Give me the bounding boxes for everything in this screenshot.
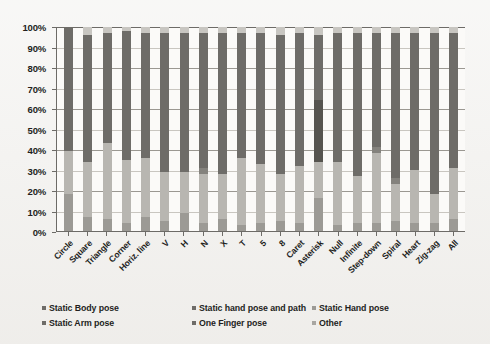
bar-slot [194, 27, 213, 231]
stacked-bar[interactable] [391, 27, 400, 231]
bar-slot [155, 27, 174, 231]
bar-segment [103, 143, 112, 218]
stacked-bar[interactable] [353, 27, 362, 231]
legend-item[interactable]: One Finger pose [192, 318, 312, 328]
bar-slot [136, 27, 155, 231]
stacked-bar[interactable] [218, 27, 227, 231]
legend-label: Static Arm pose [49, 318, 114, 328]
x-axis-tick-label: X [218, 238, 229, 249]
bar-segment [391, 33, 400, 178]
x-axis-tick-label: N [198, 238, 209, 249]
stacked-bar[interactable] [430, 27, 439, 231]
bar-segment [199, 223, 208, 231]
legend-item[interactable]: Other [312, 318, 442, 328]
bar-segment [180, 33, 189, 172]
y-axis-tick-label: 70% [0, 83, 46, 94]
x-axis-tick-label: V [160, 238, 171, 249]
bar-segment [430, 194, 439, 223]
bar-slot [251, 27, 270, 231]
bar-slot [405, 27, 424, 231]
legend-label: One Finger pose [199, 318, 267, 328]
bar-segment [391, 184, 400, 221]
bar-segment [449, 219, 458, 231]
stacked-bar[interactable] [199, 27, 208, 231]
stacked-bar[interactable] [256, 27, 265, 231]
bar-segment [314, 100, 323, 161]
bar-segment [122, 160, 131, 223]
stacked-bar[interactable] [141, 27, 150, 231]
stacked-bar[interactable] [237, 27, 246, 231]
stacked-bar[interactable] [295, 27, 304, 231]
legend-swatch-icon [192, 321, 196, 325]
bar-segment [410, 223, 419, 231]
y-axis-tick-label: 0% [0, 227, 46, 238]
stacked-bar[interactable] [103, 27, 112, 231]
bar-segment [276, 174, 285, 221]
stacked-bar[interactable] [180, 27, 189, 231]
legend-item[interactable]: Static Arm pose [42, 318, 192, 328]
bar-slot [309, 27, 328, 231]
x-axis-tick-mark [434, 232, 435, 236]
stacked-bar[interactable] [160, 27, 169, 231]
bar-segment [199, 33, 208, 168]
bar-segment [276, 221, 285, 231]
legend-item[interactable]: Static Body pose [42, 303, 192, 313]
x-axis-tick-label: 5 [257, 238, 267, 248]
stacked-bar[interactable] [410, 27, 419, 231]
bar-slot [367, 27, 386, 231]
bar-segment [391, 221, 400, 231]
stacked-bar[interactable] [449, 27, 458, 231]
bar-segment [122, 223, 131, 231]
legend-swatch-icon [312, 306, 316, 310]
bar-segment [449, 168, 458, 219]
bar-slot [386, 27, 405, 231]
legend-label: Static Hand pose [319, 303, 389, 313]
y-axis-tick-label: 60% [0, 104, 46, 115]
bar-segment [103, 33, 112, 143]
x-axis-tick-mark [318, 232, 319, 236]
bar-segment [295, 166, 304, 223]
bar-group [57, 27, 465, 231]
bar-segment [353, 223, 362, 231]
bar-slot [117, 27, 136, 231]
bar-slot [328, 27, 347, 231]
stacked-bar[interactable] [83, 27, 92, 231]
legend-item[interactable]: Static hand pose and path [192, 303, 312, 313]
stacked-bar[interactable] [333, 27, 342, 231]
bar-segment [218, 174, 227, 219]
stacked-bar[interactable] [314, 27, 323, 231]
stacked-bar[interactable] [372, 27, 381, 231]
stacked-bar[interactable] [64, 27, 73, 231]
bar-segment [276, 35, 285, 174]
x-axis-tick-mark [396, 232, 397, 236]
y-axis-tick-label: 20% [0, 186, 46, 197]
bar-slot [348, 27, 367, 231]
x-axis-tick-mark [183, 232, 184, 236]
bar-segment [256, 33, 265, 164]
stacked-bar[interactable] [276, 27, 285, 231]
bar-segment [141, 33, 150, 157]
bar-segment [333, 33, 342, 162]
stacked-bar[interactable] [122, 27, 131, 231]
plot-area [56, 27, 465, 232]
bar-slot [290, 27, 309, 231]
bar-segment [314, 27, 323, 35]
x-axis-tick-mark [357, 232, 358, 236]
bar-slot [444, 27, 463, 231]
x-axis-tick-mark [280, 232, 281, 236]
bar-segment [141, 158, 150, 217]
legend-swatch-icon [192, 306, 196, 310]
legend-item[interactable]: Static Hand pose [312, 303, 442, 313]
x-axis-tick-mark [299, 232, 300, 236]
bar-segment [314, 35, 323, 100]
bar-segment [353, 33, 362, 176]
bar-segment [372, 153, 381, 222]
bar-slot [213, 27, 232, 231]
bar-segment [333, 225, 342, 231]
x-axis-tick-mark [453, 232, 454, 236]
plot-wrapper [56, 27, 465, 232]
bar-segment [410, 170, 419, 223]
x-axis-tick-mark [261, 232, 262, 236]
bar-segment [430, 223, 439, 231]
x-axis-tick-mark [145, 232, 146, 236]
